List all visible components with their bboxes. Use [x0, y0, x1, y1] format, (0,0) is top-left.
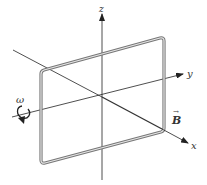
omega-label: ω [16, 94, 24, 105]
x-axis-front [102, 97, 162, 129]
y-axis [12, 74, 183, 117]
y-axis-label: y [186, 68, 193, 79]
rotating-loop-diagram: z y x B → ω [0, 0, 207, 185]
conducting-loop [41, 38, 164, 163]
x-axis-tip [162, 129, 188, 143]
z-axis-label: z [98, 4, 104, 14]
x-axis-label: x [191, 140, 197, 151]
vector-arrow-icon: → [173, 108, 179, 116]
